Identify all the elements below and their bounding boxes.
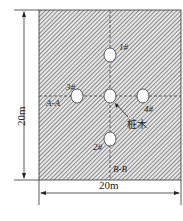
horizontal-dimension-label: 20m xyxy=(99,179,119,191)
hole-4-label: 4# xyxy=(144,104,154,114)
arrow-right-icon xyxy=(174,191,180,195)
hole-2 xyxy=(104,132,116,146)
arrow-up-icon xyxy=(22,11,26,17)
hole-2-label: 2# xyxy=(93,142,103,152)
hole-center xyxy=(104,89,116,103)
section-b-b-label: B-B xyxy=(113,164,127,174)
plan-diagram: 1# 3# 4# 2# A-A B-B 桩木 20m 20m xyxy=(0,0,183,221)
hole-1-label: 1# xyxy=(119,42,129,52)
hole-1 xyxy=(104,48,116,62)
section-a-a-label: A-A xyxy=(45,98,60,108)
arrow-down-icon xyxy=(22,173,26,179)
arrow-left-icon xyxy=(40,191,46,195)
vertical-dimension-label: 20m xyxy=(15,106,27,126)
center-pile-label: 桩木 xyxy=(127,118,147,130)
hole-4 xyxy=(137,89,149,103)
hole-3-label: 3# xyxy=(65,82,76,92)
